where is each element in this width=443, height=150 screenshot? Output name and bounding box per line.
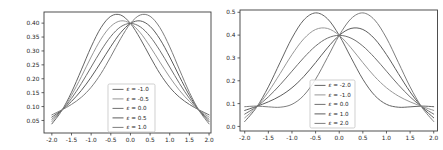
legend-label: ε = 0.5 [127,115,148,121]
x-tick-label: 0.0 [335,135,345,141]
y-tick-label: 0.35 [27,34,40,40]
y-tick-label: 0.10 [27,104,40,110]
x-tick-label: 0.5 [145,137,155,143]
x-tick-label: -2.0 [239,135,251,141]
x-tick-label: -1.0 [85,137,97,143]
legend-label: ε = 2.0 [329,120,350,126]
figure: -2.0-1.5-1.0-0.50.00.51.01.52.00.050.100… [0,0,443,150]
y-tick-label: 0.4 [226,32,236,38]
x-tick-label: 0.0 [126,137,136,143]
x-tick-label: -1.5 [66,137,78,143]
y-tick-label: 0.5 [226,9,236,15]
x-tick-label: -1.5 [263,135,275,141]
legend-label: ε = -1.0 [329,92,352,98]
x-tick-label: -2.0 [46,137,58,143]
x-tick-label: 1.5 [405,135,415,141]
x-tick-label: 1.0 [382,135,392,141]
y-tick-label: 0.1 [226,101,236,107]
y-tick-label: 0.25 [27,62,40,68]
x-tick-label: 2.0 [429,135,439,141]
left-plot: -2.0-1.5-1.0-0.50.00.51.01.52.00.050.100… [27,12,214,143]
y-tick-label: 0.30 [27,48,40,54]
x-tick-label: -0.5 [310,135,322,141]
x-tick-label: -0.5 [105,137,117,143]
legend-label: ε = 1.0 [329,111,350,117]
legend-label: ε = -0.5 [127,96,150,102]
y-tick-label: 0.40 [27,20,40,26]
x-tick-label: 0.5 [358,135,368,141]
x-tick-label: -1.0 [286,135,298,141]
y-tick-label: 0.2 [226,78,236,84]
y-tick-label: 0.0 [226,124,236,130]
x-tick-label: 2.0 [204,137,214,143]
legend-label: ε = 0.0 [127,105,148,111]
y-tick-label: 0.20 [27,76,40,82]
y-tick-label: 0.3 [226,55,236,61]
legend-label: ε = -2.0 [329,82,352,88]
legend-label: ε = 1.0 [127,124,148,130]
chart-canvas: -2.0-1.5-1.0-0.50.00.51.01.52.00.050.100… [0,0,443,150]
legend-label: ε = -1.0 [127,86,150,92]
legend-label: ε = 0.0 [329,101,350,107]
y-tick-label: 0.05 [27,118,40,124]
y-tick-label: 0.15 [27,90,40,96]
x-tick-label: 1.0 [165,137,175,143]
x-tick-label: 1.5 [185,137,195,143]
right-plot: -2.0-1.5-1.0-0.50.00.51.01.52.00.00.10.2… [226,9,438,141]
